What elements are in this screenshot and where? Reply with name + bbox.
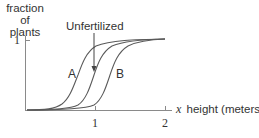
- x-axis-variable: x: [176, 102, 181, 116]
- x-axis-label: x height (meters): [176, 102, 259, 117]
- x-tick-label-2: 2: [162, 116, 168, 131]
- x-axis-label-text: height (meters): [187, 103, 259, 115]
- label-curve-a: A: [68, 67, 76, 81]
- x-tick-label-1: 1: [92, 116, 98, 131]
- label-curve-b: B: [116, 67, 124, 81]
- curve-b: [27, 39, 165, 110]
- curve-a: [27, 39, 165, 110]
- y-tick-label-1: 1: [14, 33, 20, 48]
- annotation-unfertilized: Unfertilized: [66, 20, 124, 32]
- plot-area: [0, 0, 259, 138]
- curve-unfertilized: [27, 39, 165, 110]
